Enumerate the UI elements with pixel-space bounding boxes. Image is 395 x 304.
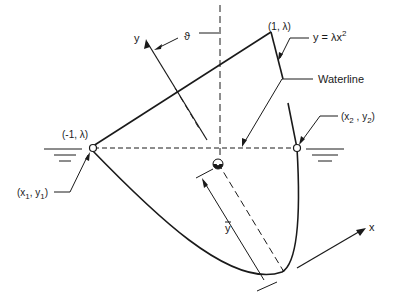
hull-diagram: y ϑ y x (-1, λ) (1, λ) (0, 0, 395, 304)
theta-arrow-icon (154, 44, 162, 50)
top-left-point-label: (-1, λ) (62, 129, 88, 140)
ybar-extension-top (196, 169, 213, 178)
left-intersection-point (90, 145, 97, 152)
x-axis (297, 230, 362, 268)
ybar-dimension-line (203, 180, 264, 280)
x-axis-arrow-icon (356, 228, 366, 236)
right-intersection-label: (x2 , y2) (341, 111, 375, 125)
x-axis-label: x (369, 221, 375, 233)
left-intersection-label: (x1, y1) (17, 187, 48, 201)
top-right-point-label: (1, λ) (268, 21, 291, 32)
waterline-leader-diag (244, 79, 282, 143)
right-intersection-point (294, 145, 301, 152)
waterline-label: Waterline (318, 73, 364, 85)
theta-label: ϑ (184, 30, 190, 42)
water-surface-left-icon (44, 149, 82, 161)
curve-equation-label: y = λx2 (313, 29, 347, 43)
y-axis-label: y (134, 32, 140, 44)
ybar-label: y (225, 222, 231, 234)
deck-line (90, 32, 271, 148)
centroid-axis-dashed (218, 163, 284, 272)
centroid-icon (213, 159, 223, 169)
water-surface-right-icon (306, 149, 344, 161)
y-axis-arrow-icon (144, 39, 150, 49)
left-point-leader-diag (70, 155, 88, 192)
right-point-leader-diag (301, 116, 320, 142)
ybar-extension-bottom (257, 282, 277, 291)
